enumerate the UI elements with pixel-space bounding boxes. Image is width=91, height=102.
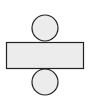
top-circle-base <box>32 15 58 41</box>
bottom-circle-base <box>32 69 58 95</box>
cylinder-net-diagram <box>0 0 91 102</box>
lateral-surface-rectangle <box>7 43 84 69</box>
